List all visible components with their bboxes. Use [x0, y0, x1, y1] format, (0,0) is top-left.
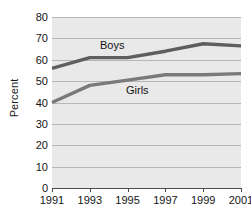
series-lines [0, 0, 251, 215]
series-label-girls: Girls [126, 84, 149, 96]
series-label-boys: Boys [100, 39, 124, 51]
series-line-boys [52, 44, 241, 69]
line-chart: Percent 01020304050607080 19911993199519… [0, 0, 251, 215]
